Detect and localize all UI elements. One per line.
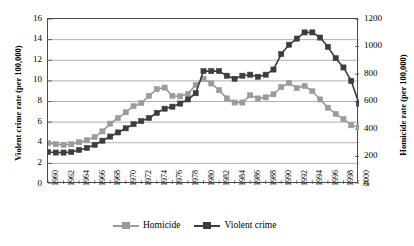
- y-tick-left-10: 10: [16, 74, 42, 85]
- data-point-marker: [279, 84, 284, 89]
- data-point-marker: [209, 81, 214, 86]
- data-point-marker: [146, 115, 151, 120]
- data-point-marker: [146, 93, 151, 98]
- data-point-marker: [294, 36, 299, 41]
- y-tick-right-800: 800: [364, 68, 394, 79]
- data-point-marker: [77, 147, 82, 152]
- data-point-marker: [255, 96, 260, 101]
- legend-item-violent-crime[interactable]: Violent crime: [194, 220, 276, 230]
- data-point-marker: [294, 85, 299, 90]
- data-point-marker: [318, 97, 323, 102]
- data-point-marker: [139, 118, 144, 123]
- legend-label: Homicide: [143, 220, 180, 230]
- legend-marker: [203, 222, 211, 229]
- y-tick-left-2: 2: [16, 157, 42, 168]
- data-point-marker: [263, 95, 268, 100]
- y-tick-left-8: 8: [16, 95, 42, 106]
- data-point-marker: [84, 138, 89, 143]
- data-point-marker: [170, 104, 175, 109]
- data-point-marker: [162, 85, 167, 90]
- data-point-marker: [201, 68, 206, 73]
- data-point-marker: [310, 89, 315, 94]
- data-point-marker: [53, 150, 58, 155]
- data-point-marker: [61, 142, 66, 147]
- data-point-marker: [248, 72, 253, 77]
- data-point-marker: [108, 134, 113, 139]
- data-point-marker: [100, 138, 105, 143]
- data-point-marker: [115, 130, 120, 135]
- data-point-marker: [255, 74, 260, 79]
- data-point-marker: [170, 93, 175, 98]
- data-point-marker: [69, 149, 74, 154]
- data-point-marker: [123, 126, 128, 131]
- chart-legend: HomicideViolent crime: [113, 220, 276, 230]
- data-point-marker: [185, 91, 190, 96]
- data-point-marker: [108, 121, 113, 126]
- data-point-marker: [216, 68, 221, 73]
- data-point-marker: [286, 80, 291, 85]
- data-point-marker: [325, 105, 330, 110]
- data-point-marker: [100, 129, 105, 134]
- data-point-marker: [271, 92, 276, 97]
- data-point-marker: [162, 106, 167, 111]
- data-point-marker: [178, 94, 183, 99]
- data-point-marker: [333, 111, 338, 116]
- series-homicide: [48, 76, 359, 147]
- data-point-marker: [318, 35, 323, 40]
- data-point-marker: [279, 51, 284, 56]
- y-tick-left-6: 6: [16, 116, 42, 127]
- crime-rate-line-chart: Violent crime rate (per 100,000) Homicid…: [0, 0, 414, 246]
- data-point-marker: [77, 140, 82, 145]
- data-point-marker: [263, 72, 268, 77]
- legend-swatch-icon: [113, 221, 139, 230]
- data-point-marker: [341, 65, 346, 70]
- data-point-marker: [139, 100, 144, 105]
- data-point-marker: [325, 44, 330, 49]
- data-point-marker: [193, 91, 198, 96]
- data-point-marker: [248, 93, 253, 98]
- data-point-marker: [302, 30, 307, 35]
- data-point-marker: [232, 100, 237, 105]
- data-point-marker: [310, 30, 315, 35]
- data-point-marker: [209, 68, 214, 73]
- data-point-marker: [154, 110, 159, 115]
- y-tick-right-1200: 1200: [364, 13, 394, 24]
- data-point-marker: [131, 104, 136, 109]
- x-tick-2000: 2000: [362, 156, 372, 186]
- y-axis-right-title: Homicide rate (per 100,000): [398, 30, 408, 180]
- data-point-marker: [240, 73, 245, 78]
- data-point-marker: [48, 141, 51, 146]
- data-point-marker: [48, 149, 51, 154]
- data-point-marker: [232, 76, 237, 81]
- data-point-marker: [92, 134, 97, 139]
- legend-label: Violent crime: [224, 220, 276, 230]
- legend-swatch-icon: [194, 221, 220, 230]
- data-point-marker: [349, 123, 354, 128]
- y-tick-right-400: 400: [364, 123, 394, 134]
- data-point-marker: [84, 145, 89, 150]
- plot-svg: [48, 19, 359, 184]
- data-point-marker: [178, 101, 183, 106]
- data-point-marker: [333, 56, 338, 61]
- data-point-marker: [131, 122, 136, 127]
- data-point-marker: [349, 78, 354, 83]
- y-tick-right-600: 600: [364, 95, 394, 106]
- data-point-marker: [224, 96, 229, 101]
- plot-area: [47, 18, 358, 183]
- y-tick-left-4: 4: [16, 136, 42, 147]
- y-tick-left-16: 16: [16, 13, 42, 24]
- data-point-marker: [356, 125, 359, 130]
- legend-item-homicide[interactable]: Homicide: [113, 220, 180, 230]
- y-tick-left-14: 14: [16, 33, 42, 44]
- data-point-marker: [302, 83, 307, 88]
- data-point-marker: [61, 150, 66, 155]
- data-point-marker: [341, 116, 346, 121]
- data-point-marker: [115, 115, 120, 120]
- data-point-marker: [185, 97, 190, 102]
- legend-marker: [122, 222, 130, 229]
- y-tick-left-12: 12: [16, 54, 42, 65]
- data-point-marker: [92, 142, 97, 147]
- data-point-marker: [216, 88, 221, 93]
- data-point-marker: [286, 42, 291, 47]
- data-point-marker: [123, 110, 128, 115]
